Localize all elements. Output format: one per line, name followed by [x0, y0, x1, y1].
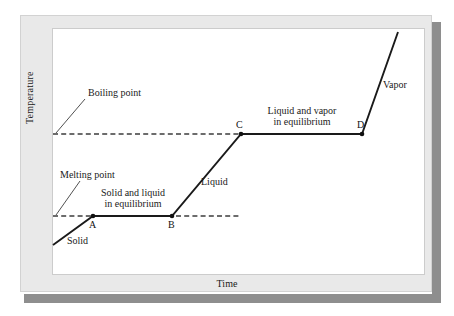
y-axis-title: Temperature: [24, 108, 35, 124]
boiling-point-label: Boiling point: [88, 87, 141, 99]
solid-phase-label: Solid: [67, 235, 88, 247]
figure-root: Temperature Time Boiling point Melting p…: [0, 0, 454, 316]
point-c-label: C: [236, 119, 243, 130]
point-b-label: B: [168, 219, 175, 230]
x-axis-title: Time: [0, 278, 454, 289]
plot-area: [52, 28, 425, 275]
liquid-phase-label: Liquid: [201, 176, 228, 188]
melting-point-label: Melting point: [60, 169, 115, 181]
frame-shadow-right: [432, 22, 441, 298]
solid-liquid-equilibrium-label-line2: in equilibrium: [78, 198, 188, 210]
point-d-label: D: [357, 119, 364, 130]
liquid-vapor-equilibrium-label-line1: Liquid and vapor: [240, 105, 364, 117]
frame-shadow-bottom: [24, 294, 441, 303]
vapor-phase-label: Vapor: [383, 79, 407, 91]
solid-liquid-equilibrium-label-line1: Solid and liquid: [78, 187, 188, 199]
liquid-vapor-equilibrium-label-line2: in equilibrium: [240, 116, 364, 128]
point-a-label: A: [89, 219, 96, 230]
